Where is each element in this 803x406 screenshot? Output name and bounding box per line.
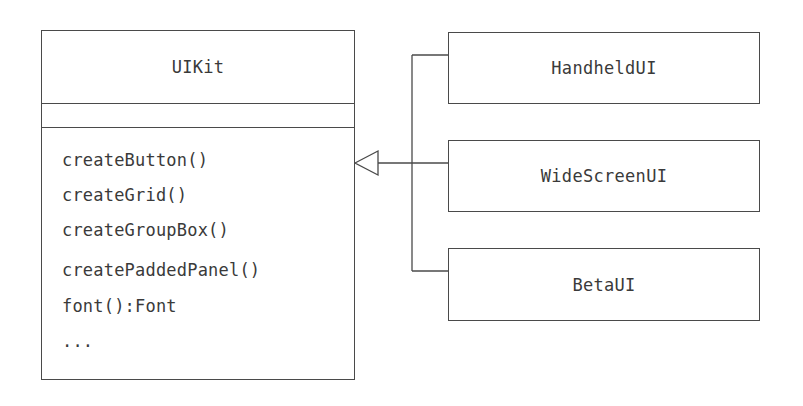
method-create-padded-panel: createPaddedPanel() bbox=[62, 260, 260, 280]
method-create-button: createButton() bbox=[62, 150, 208, 170]
method-create-group-box: createGroupBox() bbox=[62, 220, 229, 240]
class-betaui[interactable]: BetaUI bbox=[448, 248, 760, 321]
method-create-grid: createGrid() bbox=[62, 185, 187, 205]
methods-compartment: createButton() createGrid() createGroupB… bbox=[42, 127, 354, 379]
class-name-uikit: UIKit bbox=[42, 31, 354, 103]
method-ellipsis: ... bbox=[62, 331, 93, 351]
class-name-betaui: BetaUI bbox=[572, 275, 635, 295]
class-name-handheldui: HandheldUI bbox=[551, 58, 656, 78]
attributes-compartment bbox=[42, 103, 354, 128]
class-name-widescreenui: WideScreenUI bbox=[541, 166, 667, 186]
class-handheldui[interactable]: HandheldUI bbox=[448, 32, 760, 104]
generalization-arrow-icon bbox=[355, 151, 378, 175]
method-font: font():Font bbox=[62, 296, 177, 316]
class-uikit[interactable]: UIKit createButton() createGrid() create… bbox=[41, 30, 355, 380]
class-widescreenui[interactable]: WideScreenUI bbox=[448, 140, 760, 212]
